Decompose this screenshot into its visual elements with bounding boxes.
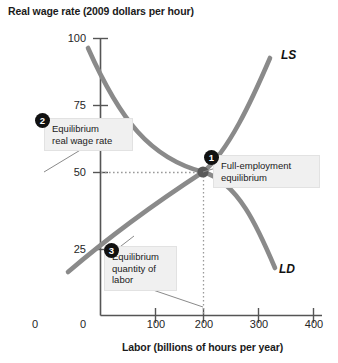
x-tick-label-300: 300 <box>239 318 279 330</box>
labor-market-equilibrium-figure: Real wage rate (2009 dollars per hour) L… <box>0 0 338 363</box>
y-tick-label-25: 25 <box>52 243 86 255</box>
callout-3-leader-line <box>150 289 203 307</box>
labor-demand-curve-label: LD <box>279 262 295 276</box>
y-tick-label-100: 100 <box>52 32 86 44</box>
x-tick-label-0: 0 <box>15 318 55 330</box>
y-tick-label-0: 0 <box>52 318 86 330</box>
callout-equilibrium-real-wage-rate: Equilibrium real wage rate <box>44 118 133 151</box>
callout-full-employment-equilibrium: Full-employment equilibrium <box>213 155 320 188</box>
callout-badge-3: 3 <box>104 243 119 258</box>
callout-badge-2: 2 <box>35 113 50 128</box>
x-tick-label-200: 200 <box>184 318 224 330</box>
y-tick-label-75: 75 <box>52 99 86 111</box>
x-tick-label-100: 100 <box>136 318 176 330</box>
labor-supply-curve-label: LS <box>281 48 296 62</box>
callout-badge-1: 1 <box>204 150 219 165</box>
y-tick-label-50: 50 <box>52 166 86 178</box>
x-tick-label-400: 400 <box>294 318 334 330</box>
